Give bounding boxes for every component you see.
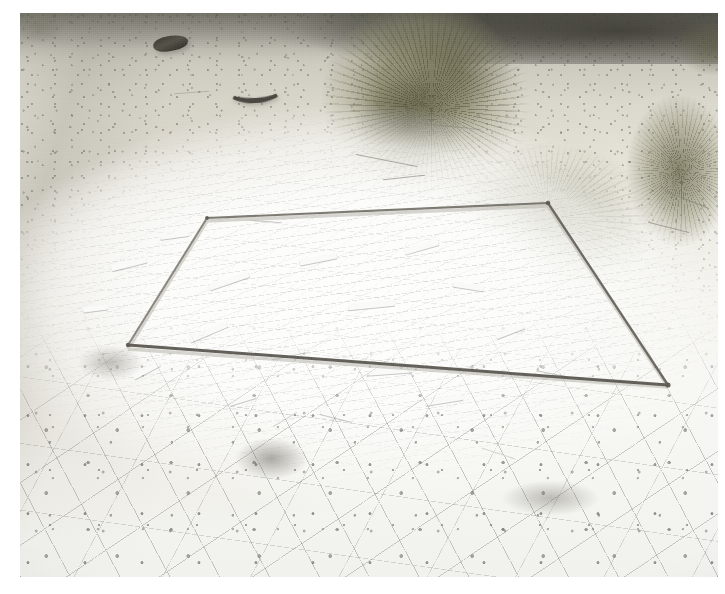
film-grain-layer	[20, 13, 718, 577]
photograph-frame	[0, 0, 725, 594]
photograph-plate	[20, 13, 718, 577]
